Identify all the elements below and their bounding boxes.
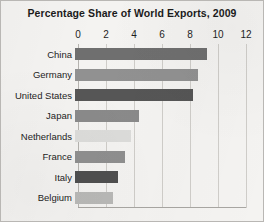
bar-rows: ChinaGermanyUnited StatesJapanNetherland…: [1, 44, 264, 208]
bar-track: [75, 106, 262, 127]
x-tick-label-0: 0: [66, 29, 90, 40]
bar-row: Netherlands: [1, 126, 264, 147]
bar-row: Belgium: [1, 188, 264, 209]
bar-label-netherlands: Netherlands: [1, 131, 75, 142]
chart-title: Percentage Share of World Exports, 2009: [1, 7, 263, 19]
x-tick-label-2: 2: [94, 29, 118, 40]
bar-track: [75, 65, 262, 86]
bar-label-belgium: Belgium: [1, 192, 75, 203]
bar-label-japan: Japan: [1, 110, 75, 121]
bar-row: Japan: [1, 106, 264, 127]
x-tick-label-10: 10: [206, 29, 230, 40]
bar-germany: [75, 69, 198, 81]
bar-label-united-states: United States: [1, 90, 75, 101]
bar-china: [75, 48, 207, 60]
bar-netherlands: [75, 130, 131, 142]
bar-italy: [75, 171, 118, 183]
bar-france: [75, 151, 125, 163]
bar-track: [75, 147, 262, 168]
bar-united-states: [75, 89, 193, 101]
bar-row: France: [1, 147, 264, 168]
bar-track: [75, 167, 262, 188]
bar-row: China: [1, 44, 264, 65]
bar-label-italy: Italy: [1, 172, 75, 183]
bar-track: [75, 44, 262, 65]
bar-row: United States: [1, 85, 264, 106]
bar-japan: [75, 110, 139, 122]
bar-label-china: China: [1, 49, 75, 60]
bar-row: Italy: [1, 167, 264, 188]
bar-track: [75, 188, 262, 209]
x-tick-label-6: 6: [150, 29, 174, 40]
bar-track: [75, 126, 262, 147]
x-tick-label-12: 12: [234, 29, 258, 40]
x-axis-tick-labels: 024681012: [1, 29, 264, 42]
chart-page: Percentage Share of World Exports, 2009 …: [0, 0, 264, 222]
bar-row: Germany: [1, 65, 264, 86]
bar-belgium: [75, 192, 113, 204]
bar-track: [75, 85, 262, 106]
x-tick-label-4: 4: [122, 29, 146, 40]
x-tick-label-8: 8: [178, 29, 202, 40]
bar-label-france: France: [1, 151, 75, 162]
bar-label-germany: Germany: [1, 69, 75, 80]
